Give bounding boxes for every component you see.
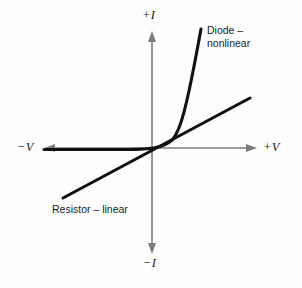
current-axis (148, 31, 156, 254)
plot-canvas (0, 0, 302, 288)
axis-label-positive-voltage: +V (263, 140, 279, 155)
current-axis-top-arrowhead (148, 31, 156, 42)
voltage-axis-right-arrowhead (246, 144, 257, 152)
diode-curve (44, 29, 201, 150)
diode-curve-label-line1: Diode – (207, 24, 250, 37)
resistor-curve-label: Resistor – linear (52, 203, 128, 216)
diode-curve-label: Diode – nonlinear (207, 24, 250, 51)
axis-label-negative-voltage: −V (17, 140, 33, 155)
current-axis-bottom-arrowhead (148, 243, 156, 254)
iv-characteristic-figure: +I −I +V −V Diode – nonlinear Resistor –… (0, 0, 302, 288)
axis-label-negative-current: −I (143, 256, 156, 271)
diode-curve-label-line2: nonlinear (207, 37, 250, 50)
axis-label-positive-current: +I (142, 8, 155, 23)
